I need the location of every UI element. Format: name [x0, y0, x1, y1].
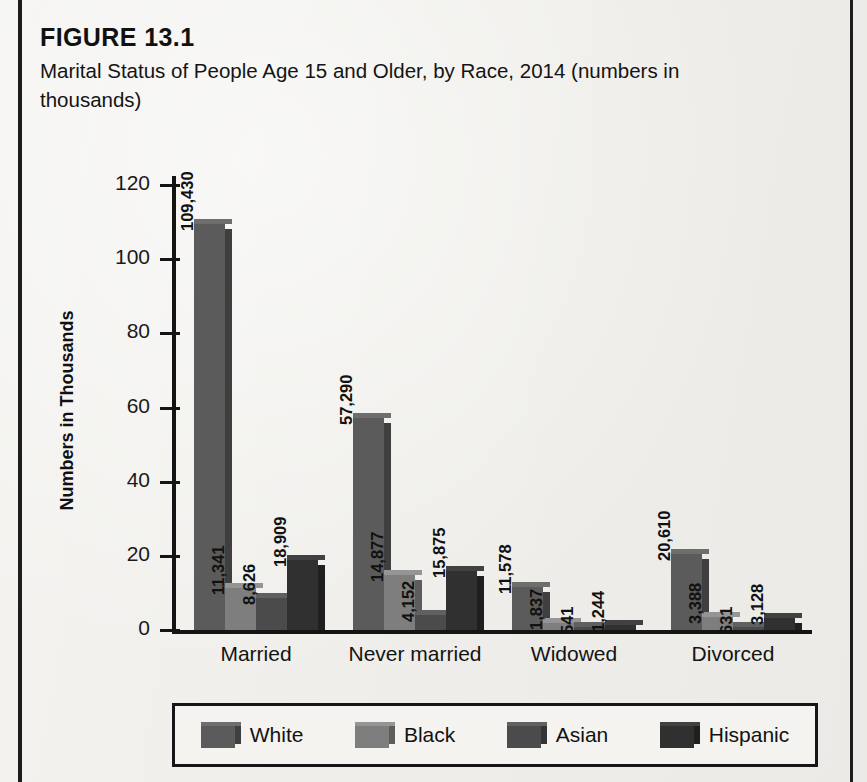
bar-face: [446, 571, 477, 630]
y-tick-label-20: 20: [80, 542, 150, 566]
bar-value-label: 3,388: [686, 583, 705, 624]
bar-face: [605, 625, 636, 630]
bar-side: [318, 565, 325, 630]
legend-label: White: [250, 723, 304, 747]
bar-face: [733, 627, 764, 630]
bar-face: [353, 418, 384, 630]
bar-side: [795, 623, 802, 630]
bar-widowed-hispanic: [605, 625, 636, 630]
bar-value-label: 14,877: [368, 531, 387, 581]
figure-page: FIGURE 13.1 Marital Status of People Age…: [0, 0, 867, 782]
bar-top: [287, 555, 325, 560]
bar-value-label: 8,626: [240, 564, 259, 605]
bar-married-hispanic: [287, 560, 318, 630]
bar-divorced-asian: [733, 627, 764, 630]
legend-label: Black: [404, 723, 455, 747]
bar-value-label: 1,837: [527, 589, 546, 630]
legend-item-black[interactable]: Black: [355, 722, 455, 748]
y-tick-60: [160, 407, 180, 410]
bar-top: [605, 620, 643, 625]
bar-face: [415, 615, 446, 630]
bar-value-label: 57,290: [337, 374, 356, 424]
bar-value-label: 1,244: [589, 591, 608, 632]
y-tick-label-60: 60: [80, 394, 150, 418]
legend-swatch-face: [660, 726, 694, 748]
y-axis-line: [172, 176, 176, 634]
bar-value-label: 4,152: [399, 580, 418, 621]
legend-swatch-face: [201, 726, 235, 748]
legend-item-hispanic[interactable]: Hispanic: [660, 722, 790, 748]
bar-top: [512, 582, 550, 587]
legend-item-white[interactable]: White: [201, 722, 304, 748]
y-tick-120: [160, 184, 180, 187]
y-tick-label-80: 80: [80, 319, 150, 343]
y-axis-title: Numbers in Thousands: [57, 281, 78, 541]
legend-label: Asian: [556, 723, 609, 747]
bar-top: [764, 613, 802, 618]
bar-top: [671, 549, 709, 554]
bar-side: [477, 576, 484, 630]
y-tick-label-120: 120: [80, 171, 150, 195]
bar-value-label: 11,341: [209, 545, 228, 595]
bar-value-label: 18,909: [271, 516, 290, 566]
y-tick-20: [160, 555, 180, 558]
bar-value-label: 15,875: [430, 528, 449, 578]
bar-value-label: 11,578: [496, 545, 515, 595]
y-tick-100: [160, 258, 180, 261]
bar-face: [287, 560, 318, 630]
bar-value-label: 109,430: [178, 172, 197, 232]
bar-top: [353, 413, 391, 418]
bar-value-label: 20,610: [655, 510, 674, 560]
y-tick-40: [160, 481, 180, 484]
legend-swatch-asian: [507, 722, 547, 748]
bar-married-asian: [256, 598, 287, 630]
legend-swatch-black: [355, 722, 395, 748]
legend-item-asian[interactable]: Asian: [507, 722, 609, 748]
bar-face: [764, 618, 795, 630]
bar-face: [256, 598, 287, 630]
bar-top: [446, 566, 484, 571]
legend-swatch-hispanic: [660, 722, 700, 748]
chart-legend: WhiteBlackAsianHispanic: [172, 703, 818, 767]
legend-swatch-face: [507, 726, 541, 748]
y-tick-80: [160, 332, 180, 335]
y-tick-0: [160, 629, 180, 632]
x-axis-line: [172, 630, 812, 634]
legend-label: Hispanic: [709, 723, 790, 747]
bar-top: [384, 570, 422, 575]
bar-never-married-hispanic: [446, 571, 477, 630]
bar-never-married-white: [353, 418, 384, 630]
bar-value-label: 631: [717, 606, 736, 634]
bar-never-married-asian: [415, 615, 446, 630]
bar-chart: Numbers in Thousands 020406080100120 109…: [0, 0, 867, 700]
x-category-divorced: Divorced: [631, 642, 835, 666]
y-tick-label-100: 100: [80, 245, 150, 269]
legend-swatch-face: [355, 726, 389, 748]
bar-divorced-hispanic: [764, 618, 795, 630]
bar-value-label: 3,128: [748, 584, 767, 625]
y-tick-label-0: 0: [80, 616, 150, 640]
legend-swatch-white: [201, 722, 241, 748]
y-tick-label-40: 40: [80, 468, 150, 492]
bar-value-label: 541: [558, 606, 577, 634]
bar-top: [194, 219, 232, 224]
